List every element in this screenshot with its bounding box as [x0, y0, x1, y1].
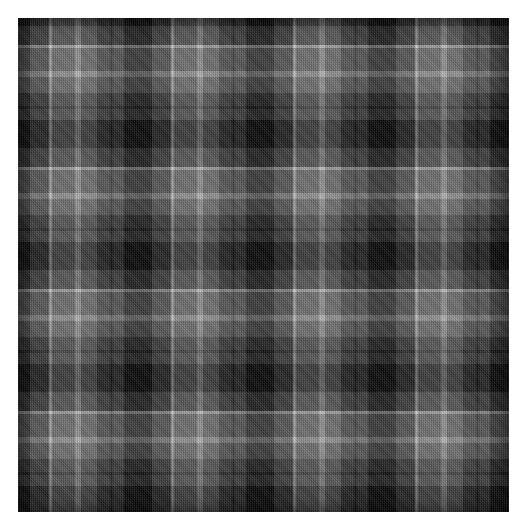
warp-band-black [490, 18, 509, 512]
warp-band-dark-grey [357, 18, 368, 512]
weft-band-dark-grey [18, 148, 509, 167]
warp-band-dark-grey [463, 18, 476, 512]
weft-band-dark-grey [18, 93, 509, 106]
warp-band-dark-grey [219, 18, 232, 512]
weft-band-shadow-guard-line [18, 472, 509, 475]
edge-vignette [18, 18, 509, 512]
weft-band-dark-grey [18, 270, 509, 289]
warp-band-dark-grey [30, 18, 49, 512]
weft-band-mid-grey [18, 77, 509, 93]
weft-band-dark-grey [18, 231, 509, 242]
weft-band-light-grey [18, 437, 509, 443]
warp-band-dark-grey [396, 18, 415, 512]
weft-band-light-grey [18, 193, 509, 199]
warp-band-mid-grey [418, 18, 441, 512]
thread-noise-texture [18, 18, 509, 512]
warp-band-mid-grey [174, 18, 197, 512]
weft-band-white-guard-line [18, 45, 509, 48]
weft-band-black [18, 242, 509, 270]
weft-band-white-guard-line [18, 289, 509, 292]
weft-band-dark-grey [18, 26, 509, 45]
warp-band-mid-grey [81, 18, 97, 512]
weft-band-dark-grey [18, 215, 509, 228]
warp-band-mid-grey [52, 18, 75, 512]
warp-band-black [18, 18, 30, 512]
warp-band-dark-grey [341, 18, 354, 512]
weft-band-white-guard-line [18, 167, 509, 170]
warp-band-light-grey [197, 18, 203, 512]
twill-weave-texture [18, 18, 509, 512]
warp-band-dark-grey [235, 18, 246, 512]
warp-band-shadow-guard-line [476, 18, 479, 512]
warp-band-light-grey [75, 18, 81, 512]
weft-band-mid-grey [18, 321, 509, 337]
warp-band-dark-grey [113, 18, 124, 512]
warp-band-light-grey [319, 18, 325, 512]
weft-band-black [18, 18, 509, 26]
warp-band-dark-grey [97, 18, 110, 512]
weft-band-white-guard-line [18, 411, 509, 414]
weft-band-mid-grey [18, 199, 509, 215]
weft-band-light-grey [18, 71, 509, 77]
tartan-swatch-image [18, 18, 509, 512]
weft-band-light-grey [18, 315, 509, 321]
warp-band-mid-grey [325, 18, 341, 512]
weft-band-mid-grey [18, 292, 509, 315]
warp-band-mid-grey [203, 18, 219, 512]
warp-band-black [124, 18, 152, 512]
weft-band-mid-grey [18, 48, 509, 71]
warp-band-dark-grey [479, 18, 490, 512]
warp-band-shadow-guard-line [110, 18, 113, 512]
weft-band-dark-grey [18, 475, 509, 486]
weft-band-dark-grey [18, 337, 509, 350]
weft-band-mid-grey [18, 443, 509, 459]
weft-band-dark-grey [18, 392, 509, 411]
warp-band-black [368, 18, 396, 512]
weft-stripe-layer [18, 18, 509, 512]
warp-band-mid-grey [447, 18, 463, 512]
weft-band-shadow-guard-line [18, 228, 509, 231]
weft-band-black [18, 120, 509, 148]
warp-band-white-guard-line [171, 18, 174, 512]
weft-band-dark-grey [18, 353, 509, 364]
weft-band-shadow-guard-line [18, 350, 509, 353]
warp-stripe-layer [18, 18, 509, 512]
warp-band-shadow-guard-line [232, 18, 235, 512]
weft-band-dark-grey [18, 109, 509, 120]
weft-band-mid-grey [18, 170, 509, 193]
page-root [0, 0, 525, 524]
weft-band-mid-grey [18, 414, 509, 437]
warp-band-mid-grey [296, 18, 319, 512]
weft-band-dark-grey [18, 459, 509, 472]
weft-band-shadow-guard-line [18, 106, 509, 109]
warp-band-white-guard-line [49, 18, 52, 512]
warp-band-dark-grey [274, 18, 293, 512]
weft-band-black [18, 364, 509, 392]
warp-band-light-grey [441, 18, 447, 512]
warp-band-shadow-guard-line [354, 18, 357, 512]
warp-band-dark-grey [152, 18, 171, 512]
warp-band-white-guard-line [293, 18, 296, 512]
warp-band-black [246, 18, 274, 512]
weft-band-black [18, 486, 509, 512]
warp-band-white-guard-line [415, 18, 418, 512]
